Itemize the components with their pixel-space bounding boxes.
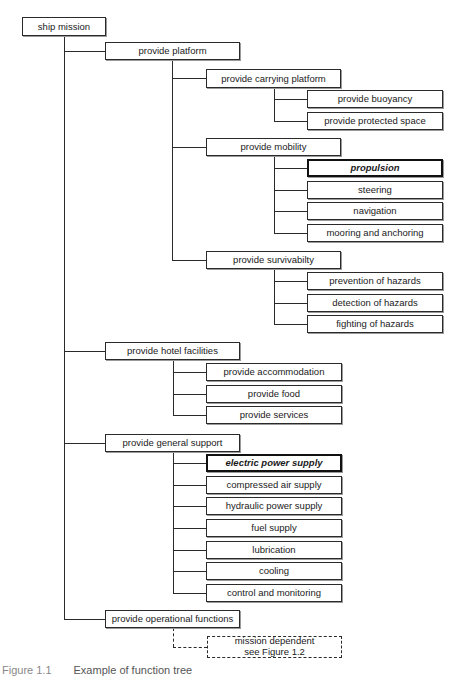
connector: [173, 593, 206, 594]
root-trunk-line: [64, 36, 65, 620]
node-ship-mission: ship mission: [22, 17, 106, 36]
node-provide-hotel-facilities: provide hotel facilities: [105, 342, 240, 360]
node-provide-operational-functions: provide operational functions: [105, 610, 240, 628]
connector: [274, 99, 307, 100]
connector: [274, 303, 307, 304]
node-navigation: navigation: [307, 202, 443, 220]
node-fuel-supply: fuel supply: [206, 519, 342, 537]
node-lubrication: lubrication: [206, 541, 342, 559]
node-provide-protected-space: provide protected space: [307, 112, 443, 130]
node-provide-survivability: provide survivabilty: [206, 251, 341, 269]
connector: [173, 394, 206, 395]
connector: [274, 211, 307, 212]
node-provide-general-support: provide general support: [105, 434, 240, 452]
connector: [173, 415, 206, 416]
figure-caption: Figure 1.1Example of function tree: [2, 664, 192, 676]
connector: [172, 147, 206, 148]
connector: [64, 51, 105, 52]
node-mooring-and-anchoring: mooring and anchoring: [307, 224, 443, 242]
hotel-trunk-line: [173, 360, 174, 415]
node-hydraulic-power-supply: hydraulic power supply: [206, 497, 342, 515]
dashed-connector: [173, 628, 174, 647]
connector: [274, 233, 307, 234]
figure-label: Figure 1.1: [2, 664, 52, 676]
connector: [64, 443, 105, 444]
connector: [274, 168, 307, 169]
node-compressed-air-supply: compressed air supply: [206, 476, 342, 494]
node-provide-buoyancy: provide buoyancy: [307, 90, 443, 108]
node-fighting-of-hazards: fighting of hazards: [307, 315, 443, 333]
mission-dependent-line2: see Figure 1.2: [244, 647, 305, 658]
node-mission-dependent: mission dependent see Figure 1.2: [207, 636, 342, 658]
node-provide-platform: provide platform: [105, 42, 240, 60]
connector: [173, 571, 206, 572]
connector: [173, 528, 206, 529]
connector: [274, 190, 307, 191]
figure-caption-text: Example of function tree: [74, 664, 193, 676]
node-detection-of-hazards: detection of hazards: [307, 294, 443, 312]
node-provide-services: provide services: [206, 406, 342, 424]
node-provide-mobility: provide mobility: [206, 138, 341, 156]
connector: [274, 324, 307, 325]
connector: [173, 506, 206, 507]
survivability-trunk-line: [274, 269, 275, 324]
connector: [172, 78, 206, 79]
node-propulsion: propulsion: [307, 159, 443, 177]
dashed-connector: [173, 647, 207, 648]
connector: [64, 619, 105, 620]
connector: [274, 281, 307, 282]
node-electric-power-supply: electric power supply: [206, 454, 342, 472]
node-provide-food: provide food: [206, 385, 342, 403]
connector: [274, 121, 307, 122]
platform-trunk-line: [172, 60, 173, 260]
node-control-and-monitoring: control and monitoring: [206, 584, 342, 602]
connector: [172, 260, 206, 261]
connector: [173, 550, 206, 551]
connector: [173, 372, 206, 373]
node-cooling: cooling: [206, 562, 342, 580]
node-prevention-of-hazards: prevention of hazards: [307, 272, 443, 290]
carrying-trunk-line: [274, 88, 275, 121]
node-provide-accommodation: provide accommodation: [206, 363, 342, 381]
connector: [173, 463, 206, 464]
node-steering: steering: [307, 181, 443, 199]
connector: [64, 351, 105, 352]
connector: [173, 485, 206, 486]
node-provide-carrying-platform: provide carrying platform: [206, 69, 341, 88]
